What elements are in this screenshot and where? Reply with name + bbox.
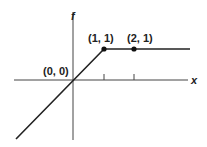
point-2-1-label: (2, 1) — [127, 32, 153, 44]
y-axis-label: f — [71, 10, 76, 22]
function-plot: f x (0, 0) (1, 1) (2, 1) — [0, 0, 207, 147]
point-1-1-marker — [101, 46, 106, 51]
x-axis-label: x — [190, 74, 198, 86]
point-1-1-label: (1, 1) — [88, 32, 114, 44]
function-curve — [16, 49, 190, 139]
point-2-1-marker — [131, 46, 136, 51]
origin-label: (0, 0) — [43, 65, 69, 77]
